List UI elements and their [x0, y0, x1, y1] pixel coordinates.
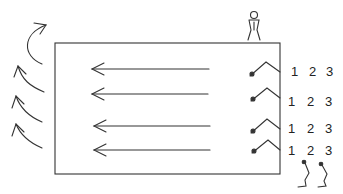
swimmer-icon	[252, 140, 280, 153]
swimmer-icon	[251, 88, 280, 101]
lane-arrow	[94, 144, 210, 156]
return-arrow	[12, 124, 42, 148]
lane-arrow	[94, 120, 210, 132]
lane-number: 3	[325, 143, 332, 158]
swimmer-icon	[250, 62, 280, 76]
waiting-swimmer-icon	[318, 162, 327, 187]
lane-number: 2	[307, 143, 314, 158]
lane-number: 3	[325, 121, 332, 136]
lane-number: 3	[325, 94, 332, 109]
lane-number: 2	[307, 94, 314, 109]
lane-number: 3	[326, 64, 333, 79]
lane-number: 1	[291, 64, 298, 79]
lane-number: 2	[307, 121, 314, 136]
return-arrow	[27, 23, 46, 64]
return-arrow	[14, 66, 44, 92]
lane-number: 1	[288, 94, 295, 109]
lane-arrow	[92, 63, 209, 75]
swimmer-icon	[251, 119, 280, 133]
coach-figure-icon	[248, 12, 260, 41]
return-arrow	[12, 96, 42, 122]
lane-arrow	[92, 88, 208, 100]
waiting-swimmer-icon	[298, 160, 309, 187]
lane-number: 1	[288, 143, 295, 158]
lane-number: 1	[288, 121, 295, 136]
pool-outline	[55, 43, 280, 174]
lane-number: 2	[309, 64, 316, 79]
